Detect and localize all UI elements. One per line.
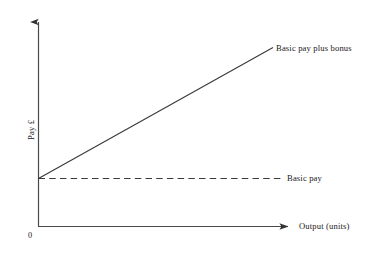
y-axis-label: Pay £	[27, 120, 36, 140]
series-label-basic-pay: Basic pay	[287, 174, 322, 183]
origin-label: 0	[28, 232, 32, 240]
pay-output-chart: Basic pay plus bonus Basic pay Output (u…	[0, 0, 387, 255]
chart-plot-area	[0, 0, 387, 255]
series-label-basic-pay-plus-bonus: Basic pay plus bonus	[276, 44, 352, 53]
series-line-basic-pay-plus-bonus	[39, 48, 274, 179]
x-axis-label: Output (units)	[299, 222, 350, 231]
